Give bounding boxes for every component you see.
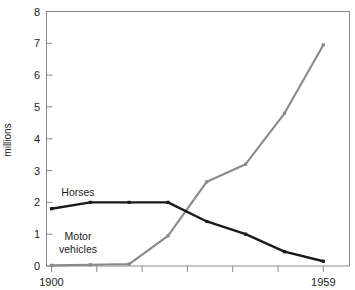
x-tick-label-start: 1900 [39,276,63,288]
y-tick-label: 1 [34,228,40,240]
data-point-marker [322,43,325,46]
data-point-marker [166,201,169,204]
data-point-marker [244,163,247,166]
data-point-marker [89,201,92,204]
data-point-marker [205,220,208,223]
data-point-marker [283,112,286,115]
y-axis-ticks [47,12,53,267]
chart-container: 8 7 6 5 4 3 2 1 0 millions 1900 1959 [0,0,355,290]
y-axis-tick-labels: 8 7 6 5 4 3 2 1 0 [34,6,40,273]
x-tick-label-end: 1959 [311,276,335,288]
y-tick-label: 3 [34,165,40,177]
y-tick-label: 7 [34,37,40,49]
y-axis-title: millions [2,123,13,156]
data-point-marker [89,263,92,266]
plot-frame [47,12,350,267]
y-tick-label: 4 [34,133,40,145]
line-chart: 8 7 6 5 4 3 2 1 0 millions 1900 1959 [0,0,355,290]
data-point-marker [166,234,169,237]
data-point-marker [128,262,131,265]
data-point-marker [283,250,286,253]
data-point-marker [322,260,325,263]
y-tick-label: 6 [34,69,40,81]
y-tick-label: 2 [34,196,40,208]
motor-vehicles-series-label-line2: vehicles [59,243,97,255]
horses-series-label: Horses [61,186,94,198]
data-point-marker [128,201,131,204]
x-axis-ticks [52,266,324,272]
motor-vehicles-series-label-line1: Motor [65,230,92,242]
data-point-marker [244,233,247,236]
motor-vehicles-line [52,45,324,265]
data-point-marker [205,180,208,183]
y-tick-label: 5 [34,101,40,113]
data-point-marker [50,207,53,210]
y-tick-label: 8 [34,6,40,18]
data-point-marker [50,264,53,267]
y-tick-label: 0 [34,260,40,272]
